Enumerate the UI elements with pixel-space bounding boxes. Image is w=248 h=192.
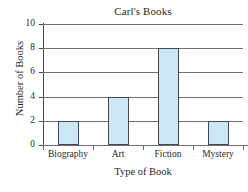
y-tick-label: 10 [19,19,35,29]
bar [208,121,229,145]
gridline [43,24,243,25]
x-category-label: Mystery [178,149,248,160]
bar [58,121,79,145]
chart-title: Carl's Books [43,5,243,17]
x-axis-title: Type of Book [43,166,243,177]
y-tick-label: 4 [19,92,35,102]
y-tick-label: 2 [19,116,35,126]
gridline [43,48,243,49]
bar [108,97,129,145]
gridline [43,72,243,73]
bar [158,48,179,145]
x-axis-line [43,145,248,146]
y-tick-label: 8 [19,43,35,53]
bar-chart: Carl's Books Number of Books 0246810 Bio… [0,0,248,192]
y-tick-label: 6 [19,67,35,77]
gridline [43,97,243,98]
plot-area [43,24,243,145]
